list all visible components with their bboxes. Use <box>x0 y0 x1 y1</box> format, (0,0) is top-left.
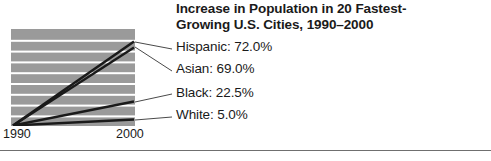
population-growth-figure: Increase in Population in 20 Fastest- Gr… <box>0 0 491 161</box>
leader-line-white <box>135 117 172 120</box>
bottom-divider <box>0 150 491 151</box>
plot-grid-bands <box>11 29 135 126</box>
x-axis-tick-2000: 2000 <box>116 127 144 141</box>
x-axis-tick-1990: 1990 <box>3 127 31 141</box>
leader-line-asian <box>135 47 172 71</box>
line-chart-plot <box>0 0 491 161</box>
series-label-asian: Asian: 69.0% <box>176 61 254 76</box>
leader-lines <box>135 42 172 120</box>
series-label-white: White: 5.0% <box>176 107 248 122</box>
series-label-black: Black: 22.5% <box>176 85 254 100</box>
series-label-hispanic: Hispanic: 72.0% <box>176 39 272 54</box>
leader-line-black <box>135 94 172 102</box>
leader-line-hispanic <box>135 42 172 49</box>
